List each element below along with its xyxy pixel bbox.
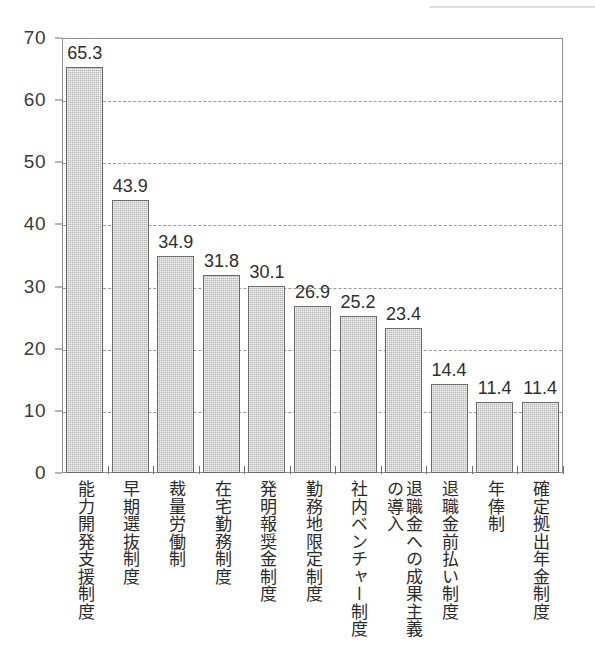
x-axis-tick-mark xyxy=(335,466,336,474)
bar-slot: 11.4 xyxy=(522,38,559,473)
bar-value-label: 26.9 xyxy=(295,282,330,303)
bar-slot: 30.1 xyxy=(248,38,285,473)
y-axis-tick-mark xyxy=(55,286,62,287)
bar-slot: 11.4 xyxy=(476,38,513,473)
x-axis-tick-mark xyxy=(472,466,473,474)
x-axis-label-column: 能力開発支援制度 xyxy=(76,480,93,620)
bar-slot: 23.4 xyxy=(385,38,422,473)
bar-slot: 26.9 xyxy=(294,38,331,473)
bar-slot: 34.9 xyxy=(157,38,194,473)
bar-slot: 43.9 xyxy=(112,38,149,473)
x-axis-tick-mark xyxy=(426,466,427,474)
x-axis-tick-mark xyxy=(563,466,564,474)
y-axis-tick-mark xyxy=(55,162,62,163)
y-axis-tick-label: 50 xyxy=(24,151,46,173)
x-axis-category-label: 退職金への成果主義の導入 xyxy=(384,480,424,638)
bar-value-label: 11.4 xyxy=(478,378,512,399)
x-axis-label-column: 発明報奨金制度 xyxy=(258,480,275,603)
x-axis-label-column: 勤務地限定制度 xyxy=(304,480,321,603)
y-axis-tick-label: 30 xyxy=(24,276,46,298)
x-axis-category-label: 勤務地限定制度 xyxy=(294,480,331,603)
bar-value-label: 43.9 xyxy=(113,176,148,197)
y-axis-tick-mark xyxy=(55,348,62,349)
x-axis-category-label: 能力開発支援制度 xyxy=(66,480,103,620)
bar[interactable] xyxy=(340,316,377,473)
bar-value-label: 25.2 xyxy=(341,292,376,313)
x-axis-label-column: の導入 xyxy=(385,480,402,638)
y-axis-tick-label: 60 xyxy=(24,89,46,111)
bar-slot: 14.4 xyxy=(431,38,468,473)
x-axis-category-label: 確定拠出年金制度 xyxy=(522,480,559,620)
bar[interactable] xyxy=(385,328,422,473)
x-axis-label-column: 年俸制 xyxy=(486,480,503,533)
x-axis-tick-mark xyxy=(517,466,518,474)
bar-value-label: 11.4 xyxy=(523,378,557,399)
bar-slot: 31.8 xyxy=(203,38,240,473)
bar-value-label: 34.9 xyxy=(158,232,193,253)
bar[interactable] xyxy=(203,275,240,473)
x-axis-tick-mark xyxy=(199,466,200,474)
x-axis-tick-mark xyxy=(153,466,154,474)
x-axis-category-label: 年俸制 xyxy=(476,480,513,533)
bar-value-label: 14.4 xyxy=(432,360,467,381)
y-axis-tick-mark xyxy=(55,224,62,225)
bar[interactable] xyxy=(431,384,468,473)
bar[interactable] xyxy=(248,286,285,473)
bar[interactable] xyxy=(294,306,331,473)
x-axis-label-column: 退職金前払い制度 xyxy=(440,480,457,620)
scan-artifact-line xyxy=(430,6,595,8)
y-axis-tick-mark xyxy=(55,473,62,474)
y-axis-tick-label: 40 xyxy=(24,213,46,235)
y-axis-tick-mark xyxy=(55,100,62,101)
bar-slot: 65.3 xyxy=(66,38,103,473)
bar-value-label: 31.8 xyxy=(204,251,239,272)
x-axis-category-label: 社内ベンチャー制度 xyxy=(340,480,377,638)
bar[interactable] xyxy=(522,402,559,473)
bar[interactable] xyxy=(476,402,513,473)
bar[interactable] xyxy=(157,256,194,473)
x-axis-label-column: 社内ベンチャー制度 xyxy=(349,480,366,638)
x-axis-category-label: 発明報奨金制度 xyxy=(248,480,285,603)
x-axis: 能力開発支援制度早期選抜制度裁量労働制在宅勤務制度発明報奨金制度勤務地限定制度社… xyxy=(62,480,563,651)
y-axis-tick-label: 20 xyxy=(24,338,46,360)
x-axis-tick-mark xyxy=(108,466,109,474)
bar-chart: 706050403020100 65.343.934.931.830.126.9… xyxy=(0,0,595,651)
x-axis-tick-mark xyxy=(244,466,245,474)
y-axis: 706050403020100 xyxy=(0,38,56,473)
x-axis-category-label: 裁量労働制 xyxy=(157,480,194,568)
bars-layer: 65.343.934.931.830.126.925.223.414.411.4… xyxy=(62,38,563,473)
x-axis-label-column: 裁量労働制 xyxy=(167,480,184,568)
x-axis-tick-mark xyxy=(381,466,382,474)
x-axis-category-label: 早期選抜制度 xyxy=(112,480,149,585)
y-axis-tick-label: 0 xyxy=(35,462,46,484)
x-axis-label-column: 在宅勤務制度 xyxy=(213,480,230,585)
y-axis-tick-mark xyxy=(55,38,62,39)
bar-value-label: 65.3 xyxy=(67,43,102,64)
x-axis-label-column: 退職金への成果主義 xyxy=(405,480,422,638)
bar-slot: 25.2 xyxy=(340,38,377,473)
y-axis-tick-label: 10 xyxy=(24,400,46,422)
x-axis-tick-mark xyxy=(290,466,291,474)
bar-value-label: 23.4 xyxy=(386,304,421,325)
x-axis-label-column: 確定拠出年金制度 xyxy=(532,480,549,620)
x-axis-category-label: 退職金前払い制度 xyxy=(431,480,468,620)
bar[interactable] xyxy=(66,67,103,473)
x-axis-category-label: 在宅勤務制度 xyxy=(203,480,240,585)
bar-value-label: 30.1 xyxy=(249,262,284,283)
y-axis-tick-label: 70 xyxy=(24,27,46,49)
y-axis-tick-mark xyxy=(55,410,62,411)
x-axis-label-column: 早期選抜制度 xyxy=(122,480,139,585)
bar[interactable] xyxy=(112,200,149,473)
